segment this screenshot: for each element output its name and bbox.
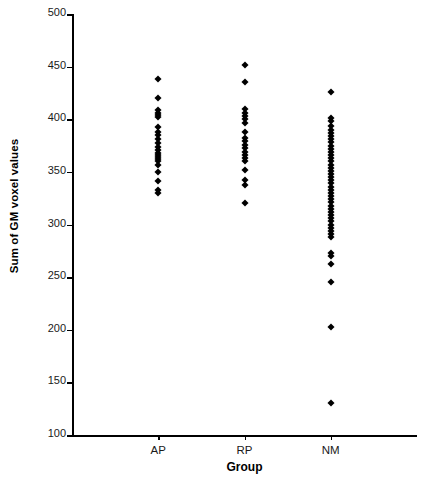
y-axis-tick-label: 400 bbox=[48, 111, 66, 123]
y-axis-tick-label: 100 bbox=[48, 427, 66, 439]
x-axis-title: Group bbox=[72, 460, 417, 474]
x-axis-tick-label-rp: RP bbox=[237, 444, 253, 456]
x-axis-tick-label-nm: NM bbox=[322, 444, 340, 456]
data-point bbox=[241, 200, 248, 207]
data-point bbox=[241, 120, 248, 127]
data-point bbox=[155, 76, 162, 83]
y-axis-tick-mark bbox=[67, 172, 72, 174]
data-point bbox=[241, 181, 248, 188]
y-axis-tick-mark bbox=[67, 435, 72, 437]
data-point bbox=[327, 400, 334, 407]
y-axis-tick-label: 350 bbox=[48, 164, 66, 176]
data-point bbox=[327, 88, 334, 95]
data-point bbox=[241, 79, 248, 86]
data-point bbox=[241, 166, 248, 173]
plot-area: 100150200250300350400450500 APRPNM bbox=[72, 14, 417, 436]
y-axis-tick-mark bbox=[67, 330, 72, 332]
y-axis-tick-label: 150 bbox=[48, 374, 66, 386]
data-point bbox=[241, 158, 248, 165]
y-axis-tick-mark bbox=[67, 119, 72, 121]
x-axis-tick-mark bbox=[245, 435, 247, 440]
y-axis-tick-label: 300 bbox=[48, 217, 66, 229]
data-point bbox=[327, 261, 334, 268]
data-point bbox=[155, 168, 162, 175]
y-axis-tick-label: 450 bbox=[48, 59, 66, 71]
x-axis-tick-label-ap: AP bbox=[151, 444, 166, 456]
y-axis-line bbox=[72, 14, 74, 437]
x-axis-tick-mark bbox=[158, 435, 160, 440]
y-axis-tick-mark bbox=[67, 225, 72, 227]
data-point bbox=[155, 95, 162, 102]
y-axis-tick-label: 200 bbox=[48, 322, 66, 334]
x-axis-tick-mark bbox=[331, 435, 333, 440]
data-point bbox=[327, 323, 334, 330]
y-axis-tick-mark bbox=[67, 277, 72, 279]
y-axis-tick-mark bbox=[67, 67, 72, 69]
y-axis-tick-mark bbox=[67, 14, 72, 16]
y-axis-tick-mark bbox=[67, 382, 72, 384]
data-point bbox=[327, 279, 334, 286]
y-axis-tick-label: 250 bbox=[48, 269, 66, 281]
data-point bbox=[241, 61, 248, 68]
y-axis-tick-label: 500 bbox=[48, 6, 66, 18]
data-point bbox=[155, 161, 162, 168]
data-point bbox=[155, 178, 162, 185]
scatter-plot-figure: Sum of GM voxel values 10015020025030035… bbox=[0, 0, 428, 495]
y-axis-title: Sum of GM voxel values bbox=[8, 106, 20, 306]
